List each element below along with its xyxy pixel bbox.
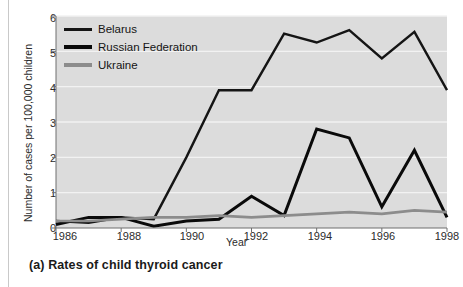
figure-caption: (a) Rates of child thyroid cancer <box>29 258 223 272</box>
chart-svg <box>0 0 463 252</box>
legend-item-ukraine: Ukraine <box>64 60 138 72</box>
legend-swatch-rect-russian-federation <box>64 45 92 49</box>
legend-label-belarus: Belarus <box>98 24 137 36</box>
line-chart-plot <box>0 0 463 252</box>
legend-swatch-ukraine <box>64 63 92 68</box>
legend-label-ukraine: Ukraine <box>98 60 138 72</box>
legend-item-belarus: Belarus <box>64 24 137 36</box>
legend-item-russian-federation: Russian Federation <box>64 42 198 54</box>
legend-swatch-russian-federation <box>64 45 92 50</box>
legend-swatch-belarus <box>64 28 92 32</box>
legend-swatch-rect-belarus <box>64 28 92 31</box>
figure-container: Number of cases per 100,000 children 6 5… <box>0 0 463 287</box>
legend-label-russian-federation: Russian Federation <box>98 42 198 54</box>
legend-swatch-rect-ukraine <box>64 63 92 67</box>
